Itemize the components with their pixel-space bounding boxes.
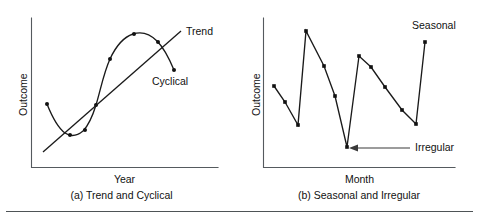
panel-a-xlabel: Year bbox=[31, 174, 218, 185]
trend-annotation-label: Trend bbox=[186, 26, 213, 37]
seasonal-annotation-label: Seasonal bbox=[412, 20, 456, 31]
bottom-divider-rule bbox=[6, 211, 473, 212]
panel-a-ylabel: Outcome bbox=[18, 73, 29, 116]
panel-a-axes bbox=[32, 18, 219, 168]
irregular-annotation-label: Irregular bbox=[415, 142, 454, 153]
trend-line bbox=[43, 31, 181, 152]
cyclical-annotation-label: Cyclical bbox=[152, 76, 188, 87]
irregular-leader-arrow bbox=[349, 144, 410, 151]
panel-b-ylabel: Outcome bbox=[251, 73, 262, 116]
panel-seasonal-and-irregular: Outcome Month (b) Seasonal and Irregular… bbox=[239, 0, 479, 223]
panel-trend-and-cyclical: Outcome Year (a) Trend and Cyclical Tren… bbox=[0, 0, 240, 223]
panel-a-caption: (a) Trend and Cyclical bbox=[14, 190, 229, 201]
panel-b-xlabel: Month bbox=[264, 174, 455, 185]
panel-b-caption: (b) Seasonal and Irregular bbox=[247, 190, 471, 201]
figure-root: Outcome Year (a) Trend and Cyclical Tren… bbox=[0, 0, 479, 223]
seasonal-series-line bbox=[274, 31, 425, 147]
